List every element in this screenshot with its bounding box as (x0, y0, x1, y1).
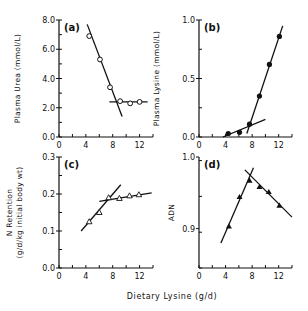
data-point (257, 93, 262, 98)
y-tick-label: 0.0 (42, 264, 55, 273)
x-tick-label: 8 (250, 272, 255, 281)
y-tick-label: 0.0 (42, 133, 55, 142)
y-tick-label: 0.0 (182, 133, 195, 142)
panel-label: (d) (204, 159, 220, 170)
y-tick-label: 2.0 (42, 104, 55, 113)
y-axis-label: ADN (167, 204, 176, 221)
data-point (277, 34, 282, 39)
y-tick-label: 6.0 (42, 45, 55, 54)
x-tick-label: 12 (134, 141, 144, 150)
x-axis-label: Dietary Lysine (g/d) (127, 292, 217, 301)
data-point (246, 177, 252, 182)
data-point (267, 62, 272, 67)
panel-c: 048120.00.10.20.3(c)N Retention(g/d/kg i… (5, 153, 153, 281)
x-tick-label: 4 (223, 141, 228, 150)
fit-line (247, 26, 283, 134)
y-axis-label-units: (g/d/kg initial body wt) (15, 166, 24, 258)
data-point (128, 101, 133, 106)
y-tick-label: 8.0 (42, 16, 55, 25)
panel-label: (a) (64, 22, 80, 33)
y-axis-label: N Retention (5, 189, 14, 236)
x-tick-label: 8 (110, 272, 115, 281)
x-tick-label: 4 (83, 141, 88, 150)
x-tick-label: 8 (250, 141, 255, 150)
x-tick-label: 12 (134, 272, 144, 281)
x-tick-label: 8 (110, 141, 115, 150)
x-tick-label: 12 (274, 141, 284, 150)
x-tick-label: 0 (196, 272, 201, 281)
y-tick-label: 0.1 (42, 227, 55, 236)
y-tick-label: 4.0 (42, 75, 55, 84)
data-point (247, 122, 252, 127)
y-axis-label: Plasma Lysine (mmol/L) (152, 31, 161, 127)
x-tick-label: 4 (83, 272, 88, 281)
data-point (226, 131, 231, 136)
panel-label: (b) (204, 22, 220, 33)
panel-label: (c) (64, 159, 79, 170)
figure: 048120.02.04.06.08.0(a)Plasma Urea (mmol… (0, 0, 308, 311)
y-axis-label: Plasma Urea (mmol/L) (13, 34, 22, 123)
data-point (226, 223, 232, 228)
data-point (127, 193, 133, 198)
y-tick-label: 1.0 (182, 153, 195, 162)
fit-line (87, 24, 122, 116)
y-tick-label: 0.9 (182, 225, 195, 234)
data-point (98, 57, 103, 62)
y-tick-label: 0.2 (42, 190, 55, 199)
data-point (87, 34, 92, 39)
y-tick-label: 1.0 (182, 16, 195, 25)
x-tick-label: 0 (56, 272, 61, 281)
data-point (118, 99, 123, 104)
panel-a: 048120.02.04.06.08.0(a)Plasma Urea (mmol… (13, 16, 153, 150)
panel-d: 048120.91.0(d)ADN (167, 153, 292, 281)
data-point (237, 130, 242, 135)
data-point (137, 100, 142, 105)
data-point (108, 85, 113, 90)
panel-b: 048120.00.51.0(b)Plasma Lysine (mmol/L) (152, 16, 292, 150)
x-tick-label: 12 (274, 272, 284, 281)
y-tick-label: 0.5 (182, 75, 195, 84)
y-tick-label: 0.3 (42, 153, 55, 162)
x-tick-label: 4 (223, 272, 228, 281)
x-tick-label: 0 (56, 141, 61, 150)
x-tick-label: 0 (196, 141, 201, 150)
